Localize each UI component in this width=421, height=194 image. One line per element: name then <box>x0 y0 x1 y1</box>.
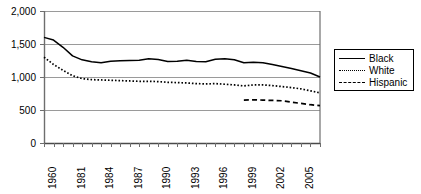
legend-label: Black <box>369 54 393 64</box>
legend-label: White <box>369 66 395 76</box>
x-axis-tick-label: 1996 <box>219 167 229 189</box>
x-axis-tick-label: 1984 <box>105 167 115 189</box>
legend-line-dashed-icon <box>339 78 365 88</box>
y-axis-tick-label: 1,500 <box>0 40 36 50</box>
data-series-layer <box>44 37 320 105</box>
x-axis-tick-label: 1993 <box>191 167 201 189</box>
x-axis-tick-label: 1999 <box>248 167 258 189</box>
legend-line-dotted-icon <box>339 66 365 76</box>
y-axis-tick-label: 2,000 <box>0 7 36 17</box>
x-axis-tick-label: 1960 <box>48 167 58 189</box>
x-axis-tick-label: 2005 <box>305 167 315 189</box>
series-line-white <box>44 57 320 93</box>
x-axis-tick-label: 1990 <box>162 167 172 189</box>
series-line-black <box>44 37 320 77</box>
chart-legend: Black White Hispanic <box>334 49 414 91</box>
chart-container: 2,000 1,500 1,000 500 0 1960198119841987… <box>0 0 421 194</box>
y-axis-tick-label: 0 <box>0 139 36 149</box>
y-axis-tick-label: 1,000 <box>0 73 36 83</box>
y-axis-tick-label: 500 <box>0 106 36 116</box>
legend-item-black: Black <box>339 53 393 65</box>
y-axis-ticks <box>40 12 44 144</box>
legend-item-hispanic: Hispanic <box>339 77 407 89</box>
x-axis-tick-label: 2002 <box>276 167 286 189</box>
legend-label: Hispanic <box>369 78 407 88</box>
series-line-hispanic <box>244 100 320 106</box>
x-axis-tick-label: 1987 <box>134 167 144 189</box>
plot-area <box>0 0 421 194</box>
x-axis-tick-label: 1981 <box>77 167 87 189</box>
legend-item-white: White <box>339 65 395 77</box>
legend-line-solid-icon <box>339 54 365 64</box>
